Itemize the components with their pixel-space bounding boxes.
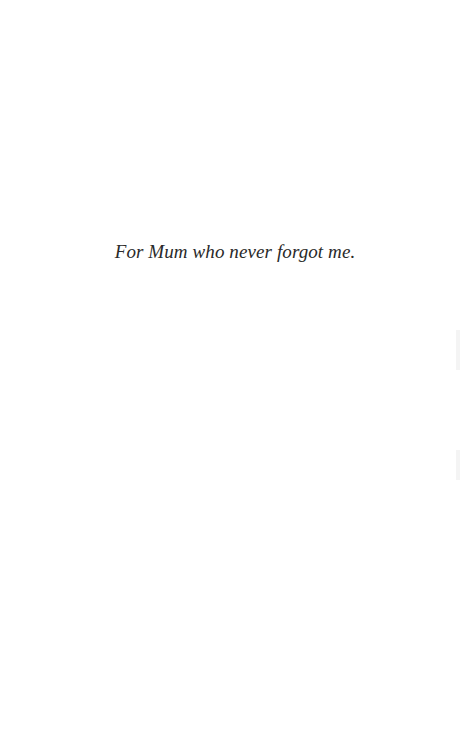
book-page: For Mum who never forgot me. [0, 0, 460, 739]
scan-edge-shadow [456, 450, 460, 480]
dedication-text: For Mum who never forgot me. [0, 241, 460, 263]
scan-edge-shadow [456, 330, 460, 370]
